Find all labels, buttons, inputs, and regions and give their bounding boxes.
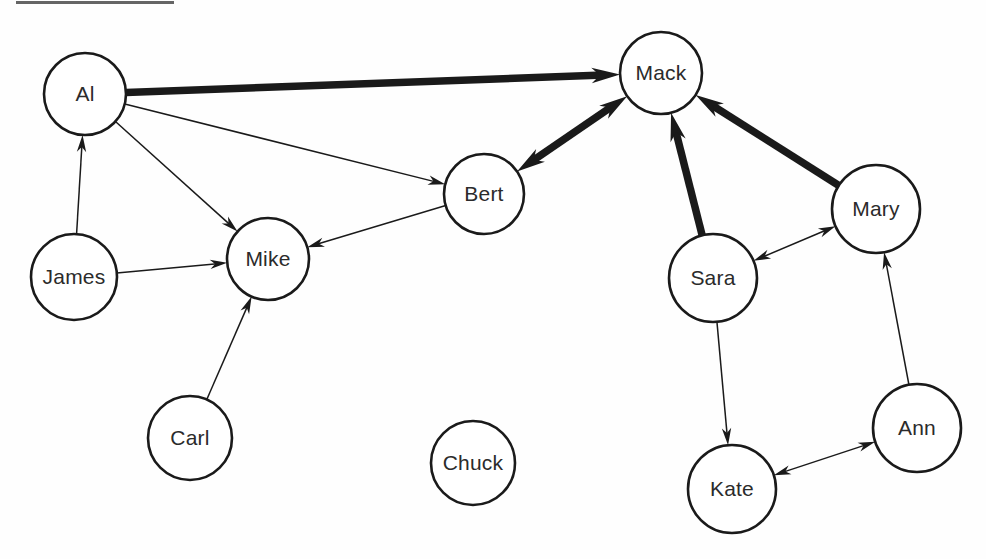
graph-svg: AlMackBertMaryMikeJamesSaraAnnCarlChuckK… <box>0 0 986 559</box>
edge-shaft <box>531 105 614 162</box>
node-label-al: Al <box>75 82 94 105</box>
edge-shaft <box>125 104 436 182</box>
node-label-ann: Ann <box>898 416 936 439</box>
node-chuck[interactable]: Chuck <box>431 421 515 505</box>
edge-sara-mack <box>671 113 703 236</box>
node-ann[interactable]: Ann <box>873 384 961 472</box>
edge-al-mike <box>115 121 237 231</box>
node-mike[interactable]: Mike <box>227 218 309 300</box>
arrow-head-icon <box>241 297 252 315</box>
edge-al-mack <box>126 68 620 93</box>
node-bert[interactable]: Bert <box>444 154 524 234</box>
node-kate[interactable]: Kate <box>688 445 776 533</box>
edge-shaft <box>117 264 218 273</box>
node-label-mary: Mary <box>852 197 900 220</box>
network-diagram-canvas: AlMackBertMaryMikeJamesSaraAnnCarlChuckK… <box>0 0 986 559</box>
node-mary[interactable]: Mary <box>832 165 920 253</box>
arrow-head-icon <box>818 226 836 237</box>
node-label-mike: Mike <box>245 247 290 270</box>
edge-shaft <box>886 262 909 385</box>
edge-shaft <box>115 121 230 224</box>
node-sara[interactable]: Sara <box>669 234 757 322</box>
edge-shaft <box>207 306 248 400</box>
edge-bert-mack <box>517 96 627 171</box>
node-label-kate: Kate <box>710 477 754 500</box>
edge-shaft <box>126 75 604 92</box>
node-carl[interactable]: Carl <box>148 396 232 480</box>
edge-shaft <box>717 322 727 435</box>
edge-shaft <box>710 104 839 186</box>
edge-shaft <box>77 145 82 234</box>
nodes-layer: AlMackBertMaryMikeJamesSaraAnnCarlChuckK… <box>31 32 961 533</box>
edge-shaft <box>783 445 866 472</box>
edge-bert-mike <box>307 206 445 248</box>
node-label-carl: Carl <box>170 426 209 449</box>
edge-shaft <box>763 230 827 257</box>
edge-mary-mack <box>696 95 839 186</box>
edge-sara-kate <box>717 322 731 445</box>
node-label-chuck: Chuck <box>443 451 504 474</box>
edge-kate-ann <box>774 442 875 475</box>
edge-james-al <box>77 135 87 234</box>
node-mack[interactable]: Mack <box>620 32 702 114</box>
edge-shaft <box>317 206 446 245</box>
node-label-james: James <box>43 265 106 288</box>
edge-ann-mary <box>883 252 909 385</box>
edge-james-mike <box>117 260 227 273</box>
edge-sara-mary <box>754 226 836 261</box>
arrow-head-icon <box>754 250 772 261</box>
edge-shaft <box>675 129 702 236</box>
node-label-sara: Sara <box>690 266 735 289</box>
node-label-bert: Bert <box>464 182 503 205</box>
node-al[interactable]: Al <box>44 53 126 135</box>
node-label-mack: Mack <box>636 61 687 84</box>
node-james[interactable]: James <box>31 234 117 320</box>
edge-carl-mike <box>207 297 252 400</box>
